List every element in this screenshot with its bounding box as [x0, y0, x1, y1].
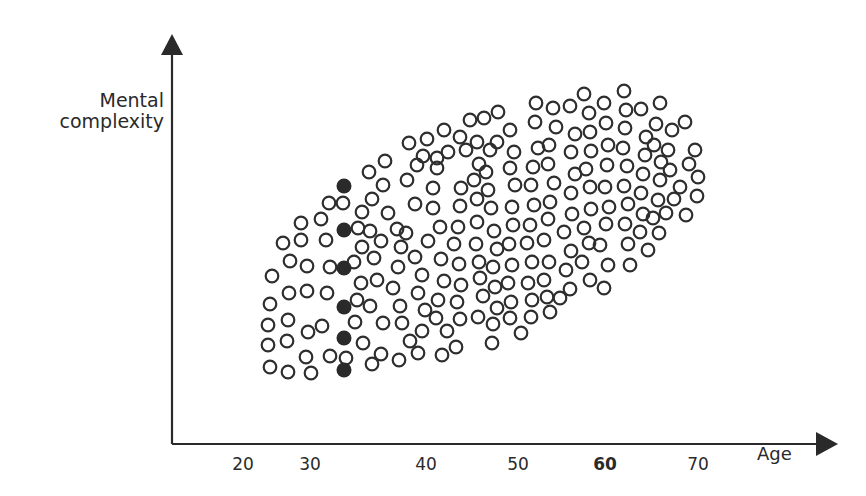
data-point-hollow: [352, 222, 365, 235]
data-point-hollow: [505, 296, 518, 309]
data-point-hollow: [409, 198, 422, 211]
data-point-hollow: [565, 187, 578, 200]
data-point-filled: [337, 331, 352, 346]
data-point-hollow: [470, 238, 483, 251]
data-point-hollow: [478, 112, 491, 125]
data-point-hollow: [277, 237, 290, 250]
data-point-hollow: [356, 206, 369, 219]
data-point-hollow: [404, 335, 417, 348]
data-point-hollow: [441, 325, 454, 338]
data-point-hollow: [453, 258, 466, 271]
data-point-hollow: [473, 256, 486, 269]
data-point-hollow: [538, 234, 551, 247]
data-point-hollow: [356, 241, 369, 254]
data-point-hollow: [578, 222, 591, 235]
data-point-hollow: [324, 261, 337, 274]
data-point-hollow: [396, 317, 409, 330]
data-point-hollow: [491, 136, 504, 149]
data-point-filled: [337, 300, 352, 315]
data-point-hollow: [435, 253, 448, 266]
data-point-hollow: [580, 163, 593, 176]
data-point-hollow: [662, 144, 675, 157]
data-point-hollow: [683, 158, 696, 171]
data-point-hollow: [530, 97, 543, 110]
data-point-hollow: [508, 146, 521, 159]
data-point-hollow: [548, 177, 561, 190]
data-point-hollow: [679, 116, 692, 129]
data-point-hollow: [529, 116, 542, 129]
data-point-hollow: [281, 335, 294, 348]
data-point-hollow: [349, 316, 362, 329]
data-point-filled: [337, 223, 352, 238]
data-point-hollow: [566, 208, 579, 221]
data-point-hollow: [282, 314, 295, 327]
data-point-hollow: [473, 158, 486, 171]
data-point-hollow: [576, 256, 589, 269]
data-point-hollow: [578, 88, 591, 101]
data-point-hollow: [560, 264, 573, 277]
data-point-hollow: [492, 106, 505, 119]
data-point-hollow: [653, 227, 666, 240]
data-point-hollow: [403, 137, 416, 150]
data-point-hollow: [598, 97, 611, 110]
data-point-hollow: [422, 235, 435, 248]
data-point-hollow: [509, 179, 522, 192]
data-point-hollow: [635, 103, 648, 116]
x-axis-label: Age: [757, 443, 792, 464]
data-point-hollow: [491, 302, 504, 315]
data-point-hollow: [583, 107, 596, 120]
data-point-hollow: [357, 337, 370, 350]
data-point-hollow: [598, 282, 611, 295]
data-point-hollow: [442, 146, 455, 159]
data-point-hollow: [502, 277, 515, 290]
data-point-hollow: [409, 251, 422, 264]
data-point-hollow: [430, 312, 443, 325]
data-point-hollow: [600, 117, 613, 130]
data-point-hollow: [506, 201, 519, 214]
data-point-hollow: [315, 213, 328, 226]
data-point-hollow: [618, 85, 631, 98]
data-point-hollow: [295, 217, 308, 230]
data-point-hollow: [324, 350, 337, 363]
data-point-hollow: [526, 256, 539, 269]
data-point-hollow: [538, 274, 551, 287]
data-point-hollow: [634, 226, 647, 239]
hollow-points: [262, 85, 705, 380]
data-point-hollow: [487, 261, 500, 274]
data-point-hollow: [584, 274, 597, 287]
data-point-hollow: [544, 196, 557, 209]
data-point-hollow: [377, 317, 390, 330]
data-point-hollow: [282, 366, 295, 379]
data-point-hollow: [602, 139, 615, 152]
data-point-hollow: [417, 150, 430, 163]
data-point-hollow: [507, 219, 520, 232]
data-point-hollow: [300, 351, 313, 364]
data-point-hollow: [622, 238, 635, 251]
data-point-hollow: [504, 124, 517, 137]
data-point-hollow: [464, 114, 477, 127]
data-point-hollow: [393, 354, 406, 367]
data-point-hollow: [515, 327, 528, 340]
data-point-hollow: [364, 300, 377, 313]
data-point-hollow: [351, 294, 364, 307]
data-point-hollow: [584, 181, 597, 194]
data-point-hollow: [266, 270, 279, 283]
data-point-hollow: [305, 367, 318, 380]
data-point-hollow: [471, 193, 484, 206]
data-point-hollow: [689, 144, 702, 157]
data-point-hollow: [622, 198, 635, 211]
data-point-hollow: [542, 213, 555, 226]
data-point-hollow: [602, 259, 615, 272]
data-point-hollow: [434, 221, 447, 234]
data-point-hollow: [565, 146, 578, 159]
data-point-hollow: [364, 225, 377, 238]
data-point-hollow: [650, 118, 663, 131]
x-tick-label: 50: [507, 454, 529, 474]
data-point-hollow: [486, 337, 499, 350]
data-point-hollow: [542, 158, 555, 171]
x-tick-label: 20: [232, 454, 254, 474]
data-point-hollow: [401, 174, 414, 187]
data-point-hollow: [692, 171, 705, 184]
data-point-hollow: [547, 102, 560, 115]
data-point-hollow: [355, 277, 368, 290]
